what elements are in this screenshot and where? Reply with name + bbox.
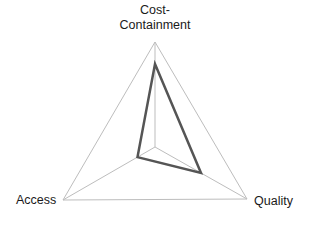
axis-label-cost-containment: Cost- Containment	[105, 3, 205, 33]
radar-series	[138, 64, 202, 173]
axis-label-line-1: Cost-	[105, 3, 205, 18]
axis-label-line-2: Containment	[105, 18, 205, 33]
axis-label-access: Access	[16, 193, 56, 208]
series-polygon	[138, 64, 202, 173]
radar-plot-area	[0, 0, 319, 225]
radar-chart: Cost- Containment Access Quality	[0, 0, 319, 225]
axis-label-quality: Quality	[254, 194, 293, 209]
grid-spoke	[63, 147, 155, 200]
